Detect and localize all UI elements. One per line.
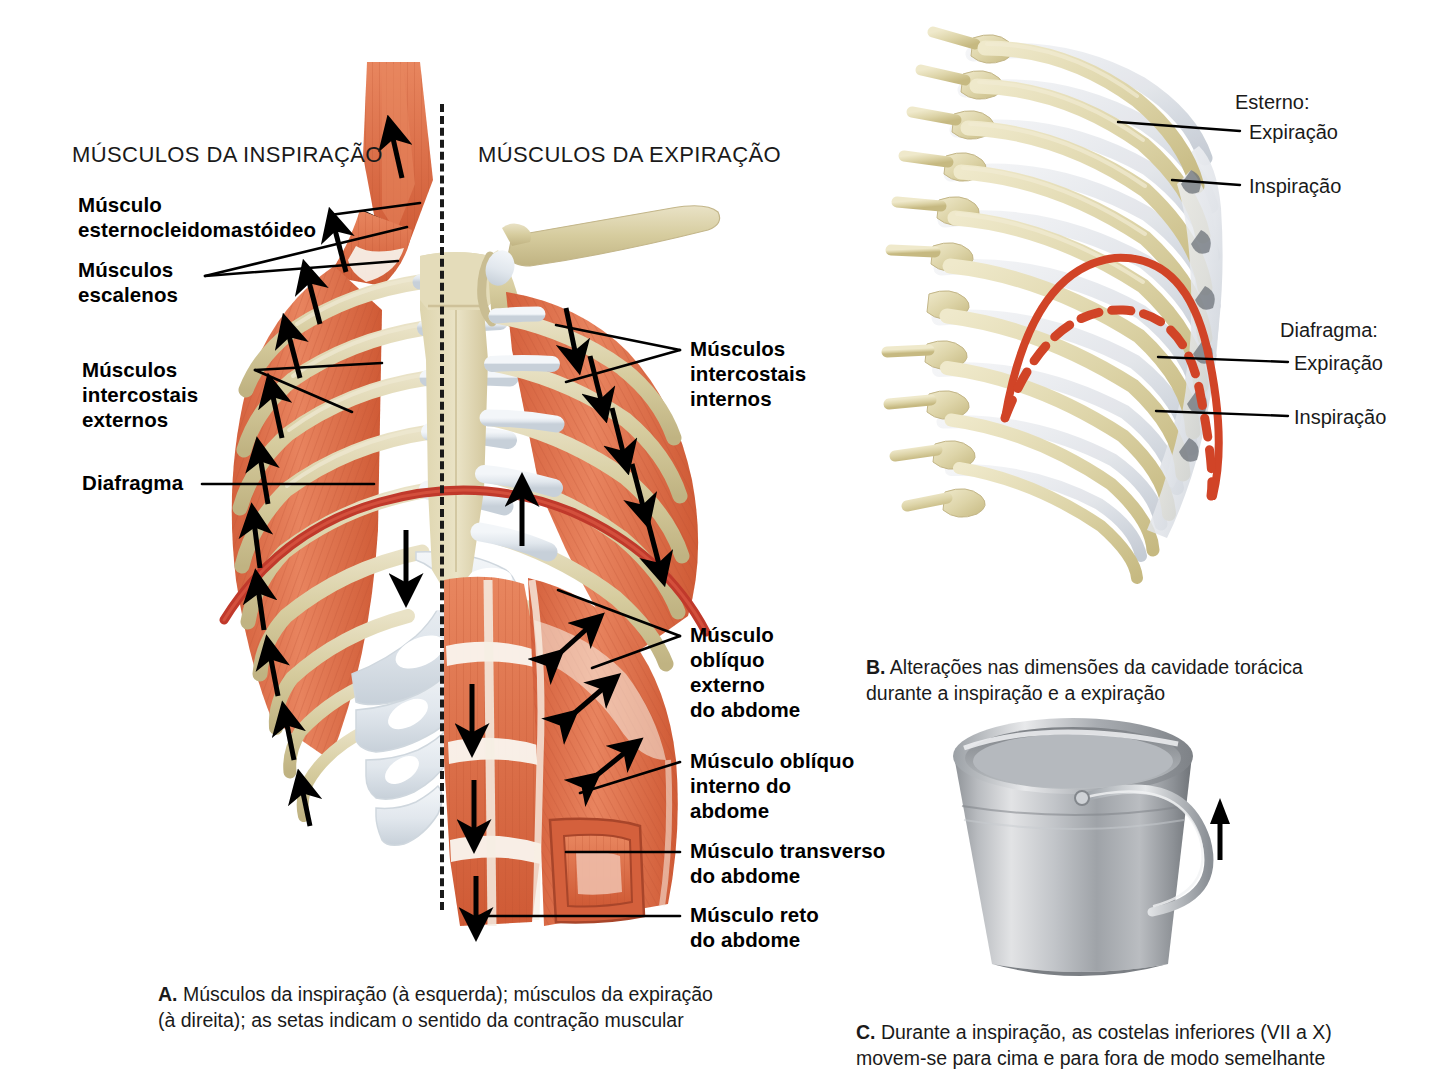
panel-c-caption: C. Durante a inspiração, as costelas inf…	[856, 993, 1453, 1071]
bucket-up-arrow	[1210, 798, 1230, 860]
panel-c-caption-marker: C.	[856, 1021, 876, 1043]
panel-c-bucket-illustration	[930, 712, 1260, 987]
panel-b-caption-marker: B.	[866, 656, 886, 678]
panel-b-caption: B. Alterações nas dimensões da cavidade …	[866, 628, 1446, 706]
panel-b-caption-text: Alterações nas dimensões da cavidade tor…	[866, 656, 1303, 704]
panel-c-caption-text: Durante a inspiração, as costelas inferi…	[856, 1021, 1332, 1069]
